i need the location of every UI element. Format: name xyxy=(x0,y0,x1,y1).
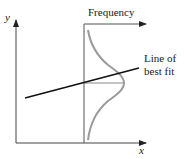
y-axis-label: y xyxy=(4,11,10,23)
x-axis-label: x xyxy=(138,144,144,156)
line-label-2: best fit xyxy=(144,65,174,77)
diagram-canvas: y x Frequency Line of best fit xyxy=(0,0,185,159)
frequency-label: Frequency xyxy=(88,6,135,18)
line-label-1: Line of xyxy=(144,52,176,64)
distribution-curve xyxy=(88,30,124,140)
